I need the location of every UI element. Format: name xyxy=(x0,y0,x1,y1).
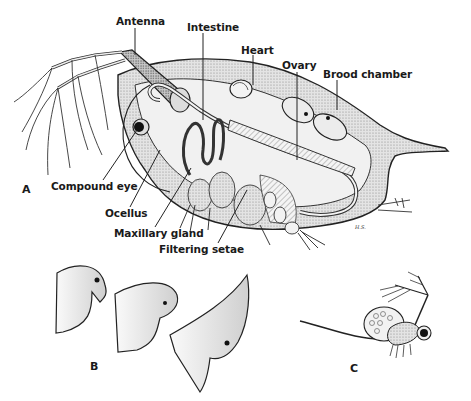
illustration xyxy=(0,0,471,401)
label-brood-chamber: Brood chamber xyxy=(323,68,412,80)
panel-b-drawing xyxy=(56,266,249,392)
panel-letter-b: B xyxy=(90,360,98,373)
label-antenna: Antenna xyxy=(116,15,165,27)
label-heart: Heart xyxy=(241,44,274,56)
label-intestine: Intestine xyxy=(187,21,239,33)
panel-letter-c: C xyxy=(350,362,358,375)
daphnia-diagram: Antenna Intestine Heart Ovary Brood cham… xyxy=(0,0,471,401)
label-maxillary-gland: Maxillary gland xyxy=(114,227,204,239)
label-ocellus: Ocellus xyxy=(105,207,148,219)
panel-c-drawing xyxy=(300,272,431,358)
panel-a-drawing xyxy=(14,28,448,250)
panel-letter-a: A xyxy=(22,183,31,196)
label-compound-eye: Compound eye xyxy=(51,180,138,192)
artist-signature: H.S. xyxy=(355,224,366,230)
label-ovary: Ovary xyxy=(282,59,316,71)
label-filtering-setae: Filtering setae xyxy=(159,243,244,255)
